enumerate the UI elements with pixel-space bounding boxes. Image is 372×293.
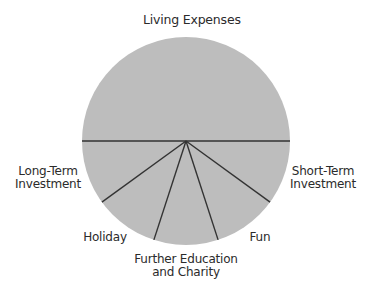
label-long-term-investment: Long-Term Investment — [12, 165, 84, 191]
label-fun: Fun — [245, 231, 275, 244]
label-short-term-line2: Investment — [287, 178, 359, 191]
label-holiday: Holiday — [80, 231, 130, 244]
label-long-term-line2: Investment — [12, 178, 84, 191]
label-further-education-and-charity: Further Education and Charity — [128, 253, 244, 279]
label-further-education-line2: and Charity — [128, 266, 244, 279]
label-short-term-investment: Short-Term Investment — [287, 165, 359, 191]
label-living-expenses: Living Expenses — [143, 13, 233, 26]
pie-slices — [82, 37, 290, 245]
pie-chart — [0, 0, 372, 293]
